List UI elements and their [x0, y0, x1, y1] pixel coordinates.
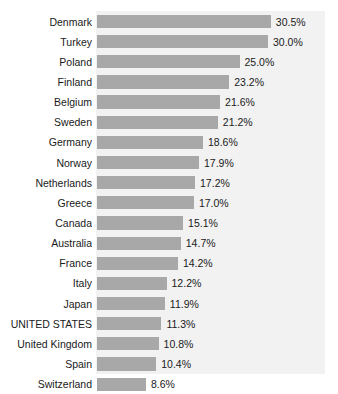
bar-row: Japan11.9% — [0, 294, 338, 314]
bar-row: Belgium21.6% — [0, 92, 338, 112]
bar-row: Switzerland8.6% — [0, 374, 338, 394]
bar-track — [97, 92, 220, 112]
bar — [97, 378, 146, 391]
bar-track — [97, 173, 195, 193]
bar — [97, 156, 199, 169]
category-label: Netherlands — [0, 173, 92, 193]
bar-value-label: 18.6% — [208, 132, 238, 152]
bar-track — [97, 294, 165, 314]
bar-value-label: 30.5% — [276, 12, 306, 32]
bar-value-label: 17.2% — [200, 173, 230, 193]
bar-row: Sweden21.2% — [0, 112, 338, 132]
category-label: Turkey — [0, 32, 92, 52]
category-label: Poland — [0, 52, 92, 72]
bar-track — [97, 273, 167, 293]
category-label: Canada — [0, 213, 92, 233]
bar-track — [97, 354, 156, 374]
category-label: United Kingdom — [0, 334, 92, 354]
bar — [97, 35, 268, 48]
category-label: France — [0, 253, 92, 273]
bar-value-label: 11.3% — [166, 314, 195, 334]
bar-track — [97, 253, 178, 273]
bar-track — [97, 72, 229, 92]
category-label: Germany — [0, 132, 92, 152]
bar-value-label: 10.8% — [164, 334, 194, 354]
bar — [97, 75, 229, 88]
bar-track — [97, 334, 159, 354]
bar-track — [97, 314, 161, 334]
category-label: Sweden — [0, 112, 92, 132]
category-label: Switzerland — [0, 374, 92, 394]
bar-value-label: 10.4% — [161, 354, 191, 374]
bar-row: UNITED STATES11.3% — [0, 314, 338, 334]
category-label: Spain — [0, 354, 92, 374]
bar — [97, 95, 220, 108]
category-label: Finland — [0, 72, 92, 92]
bar-row: Canada15.1% — [0, 213, 338, 233]
bar-row: Italy12.2% — [0, 273, 338, 293]
bar-row: Germany18.6% — [0, 132, 338, 152]
bar-row: Australia14.7% — [0, 233, 338, 253]
bar — [97, 196, 194, 209]
bar-row: Greece17.0% — [0, 193, 338, 213]
bar-track — [97, 153, 199, 173]
bar-value-label: 21.2% — [223, 112, 253, 132]
bar-row: Finland23.2% — [0, 72, 338, 92]
bar — [97, 237, 181, 250]
bar — [97, 176, 195, 189]
category-label: Australia — [0, 233, 92, 253]
bar-track — [97, 193, 194, 213]
category-label: Belgium — [0, 92, 92, 112]
bar — [97, 337, 159, 350]
bar-row: United Kingdom10.8% — [0, 334, 338, 354]
bar — [97, 136, 203, 149]
bar-value-label: 23.2% — [234, 72, 264, 92]
bar-track — [97, 233, 181, 253]
bar — [97, 277, 167, 290]
bar — [97, 257, 178, 270]
bar-value-label: 30.0% — [273, 32, 303, 52]
bar — [97, 216, 183, 229]
bar-row: Poland25.0% — [0, 52, 338, 72]
category-label: Norway — [0, 153, 92, 173]
bar-row: France14.2% — [0, 253, 338, 273]
category-label: Italy — [0, 273, 92, 293]
bar — [97, 116, 218, 129]
bar — [97, 317, 161, 330]
bar-value-label: 25.0% — [245, 52, 275, 72]
bar-value-label: 15.1% — [188, 213, 218, 233]
bar-value-label: 14.7% — [186, 233, 216, 253]
bar — [97, 297, 165, 310]
bar-value-label: 17.0% — [199, 193, 229, 213]
bar-value-label: 11.9% — [170, 294, 199, 314]
category-label: Denmark — [0, 12, 92, 32]
bar-track — [97, 374, 146, 394]
bar-track — [97, 32, 268, 52]
bar-value-label: 8.6% — [151, 374, 175, 394]
category-label: Japan — [0, 294, 92, 314]
bar — [97, 15, 271, 28]
bar-track — [97, 112, 218, 132]
bar — [97, 55, 240, 68]
bar-value-label: 14.2% — [183, 253, 213, 273]
category-label: Greece — [0, 193, 92, 213]
bar-value-label: 17.9% — [204, 153, 234, 173]
bar — [97, 357, 156, 370]
bar-track — [97, 213, 183, 233]
bar-value-label: 21.6% — [225, 92, 255, 112]
bar-row: Turkey30.0% — [0, 32, 338, 52]
category-label: UNITED STATES — [0, 314, 92, 334]
bar-row: Spain10.4% — [0, 354, 338, 374]
bar-value-label: 12.2% — [172, 273, 202, 293]
bar-track — [97, 12, 271, 32]
bar-row: Denmark30.5% — [0, 12, 338, 32]
bar-track — [97, 52, 240, 72]
bar-row: Norway17.9% — [0, 153, 338, 173]
bar-track — [97, 132, 203, 152]
bar-row: Netherlands17.2% — [0, 173, 338, 193]
